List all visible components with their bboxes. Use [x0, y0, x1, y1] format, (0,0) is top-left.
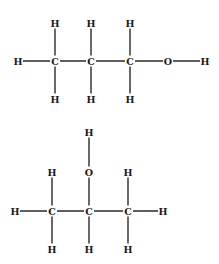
atom-h-h1: H	[85, 127, 94, 138]
atom-h-h5: H	[126, 18, 135, 29]
atom-h-h8: H	[124, 244, 133, 255]
atom-h-h3: H	[124, 167, 133, 178]
atom-o-o1: O	[85, 167, 93, 178]
atom-h-h2: H	[48, 167, 57, 178]
atom-h-h8: H	[126, 94, 135, 105]
atom-h-h7: H	[87, 94, 96, 105]
atom-h-h2: H	[201, 56, 210, 67]
atom-c-c2: C	[85, 206, 93, 217]
atom-c-c3: C	[126, 56, 134, 67]
molecule-2-propanol: HOHHHCCCHHHH	[10, 127, 168, 256]
atom-h-h6: H	[48, 244, 57, 255]
molecule-1-propanol: HCCCOHHHHHHH	[13, 18, 210, 106]
atom-c-c3: C	[124, 206, 132, 217]
atom-h-h7: H	[85, 244, 94, 255]
atom-c-c1: C	[51, 56, 59, 67]
atom-c-c2: C	[87, 56, 95, 67]
atom-h-h4: H	[11, 206, 20, 217]
atom-h-h1: H	[14, 56, 23, 67]
atom-h-h4: H	[87, 18, 96, 29]
atom-c-c1: C	[48, 206, 56, 217]
atom-h-h5: H	[159, 206, 168, 217]
atom-o-o1: O	[164, 56, 172, 67]
structural-formula-diagram: HCCCOHHHHHHH HOHHHCCCHHHH	[0, 0, 219, 264]
atom-h-h3: H	[51, 18, 60, 29]
atom-h-h6: H	[51, 94, 60, 105]
